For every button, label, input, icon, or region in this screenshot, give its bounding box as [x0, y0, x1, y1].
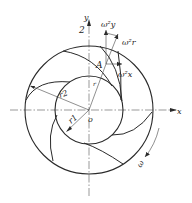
omega-label: ω [135, 158, 146, 169]
r-label: r [93, 80, 97, 87]
y-top-marker: 2 [78, 25, 85, 35]
r1-dimension: r1 [66, 110, 89, 132]
x-axis [10, 108, 177, 112]
blade-5 [84, 143, 123, 164]
rotation-indicator: ω [135, 128, 159, 169]
origin-label: o [88, 115, 93, 124]
r2-label: r2 [58, 88, 69, 100]
r-vector: r [89, 64, 106, 110]
x-axis-label: x [177, 107, 182, 116]
r2-dimension: r2 [30, 86, 89, 110]
omega2x-label: ω²x [118, 70, 133, 79]
omega2r-label: ω²r [122, 38, 137, 47]
omega2y-label: ω²y [101, 20, 116, 29]
point-a: A [95, 30, 122, 70]
blade-6 [112, 112, 152, 135]
y-axis-label: y [83, 13, 89, 22]
impeller-diagram: r2 r1 r A ω²y ω²r ω²x y 2 x o ω [0, 0, 192, 203]
r1-label: r1 [67, 113, 80, 126]
blade-4 [50, 115, 57, 161]
point-a-label: A [95, 60, 103, 70]
